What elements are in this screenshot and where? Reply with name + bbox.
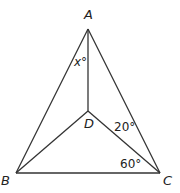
angle-20-label: 20° <box>114 120 135 134</box>
segment-bd <box>16 111 88 173</box>
angle-x-label: x° <box>73 55 87 69</box>
segment-ac <box>88 29 160 173</box>
label-c: C <box>163 173 173 188</box>
label-d: D <box>84 116 94 131</box>
label-b: B <box>1 173 10 188</box>
segment-ab <box>16 29 88 173</box>
angle-60-label: 60° <box>120 157 141 171</box>
triangle-diagram: A B C D x° 20° 60° <box>0 0 180 193</box>
label-a: A <box>83 7 93 22</box>
